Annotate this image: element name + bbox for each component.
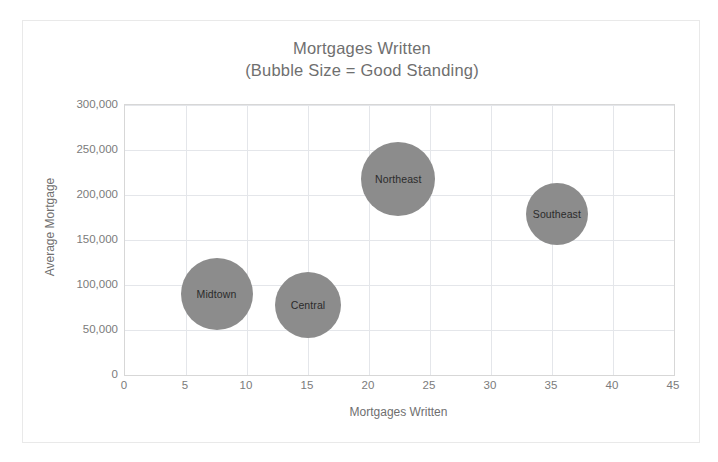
bubble-central[interactable]: Central [275,272,341,338]
bubble-label: Northeast [375,173,421,185]
gridline-horizontal [125,105,674,106]
x-axis-title: Mortgages Written [124,405,673,419]
chart-subtitle: (Bubble Size = Good Standing) [23,59,701,81]
y-axis-title: Average Mortgage [43,147,57,307]
y-axis-tick-label: 200,000 [76,188,118,200]
chart-title: Mortgages Written (Bubble Size = Good St… [23,37,701,81]
bubble-label: Central [291,299,326,311]
y-axis-tick-label: 300,000 [76,98,118,110]
gridline-vertical [430,105,431,375]
x-axis-tick-label: 30 [484,379,497,391]
gridline-horizontal [125,240,674,241]
x-axis-tick-label: 10 [240,379,253,391]
bubble-label: Midtown [197,288,237,300]
bubble-label: Southeast [533,208,581,220]
plot-area: MidtownCentralNortheastSoutheast [124,104,675,376]
y-axis-tick-label: 0 [112,368,118,380]
chart-container: Mortgages Written (Bubble Size = Good St… [22,20,700,443]
x-axis-tick-label: 40 [606,379,619,391]
y-axis-tick-label: 100,000 [76,278,118,290]
x-axis-tick-label: 45 [667,379,680,391]
x-axis-tick-label: 15 [301,379,314,391]
gridline-vertical [247,105,248,375]
y-axis-tick-label: 250,000 [76,143,118,155]
gridline-vertical [369,105,370,375]
bubble-midtown[interactable]: Midtown [181,258,253,330]
gridline-vertical [613,105,614,375]
chart-title-main: Mortgages Written [293,39,431,57]
y-axis-tick-labels: 050,000100,000150,000200,000250,000300,0… [23,104,118,374]
x-axis-tick-label: 5 [182,379,188,391]
x-axis-tick-labels: 051015202530354045 [124,379,673,397]
y-axis-tick-label: 150,000 [76,233,118,245]
y-axis-tick-label: 50,000 [83,323,118,335]
gridline-vertical [186,105,187,375]
bubble-northeast[interactable]: Northeast [361,142,435,216]
x-axis-tick-label: 0 [121,379,127,391]
x-axis-tick-label: 25 [423,379,436,391]
x-axis-tick-label: 20 [362,379,375,391]
x-axis-tick-label: 35 [545,379,558,391]
gridline-vertical [491,105,492,375]
gridline-horizontal [125,330,674,331]
bubble-southeast[interactable]: Southeast [526,183,588,245]
